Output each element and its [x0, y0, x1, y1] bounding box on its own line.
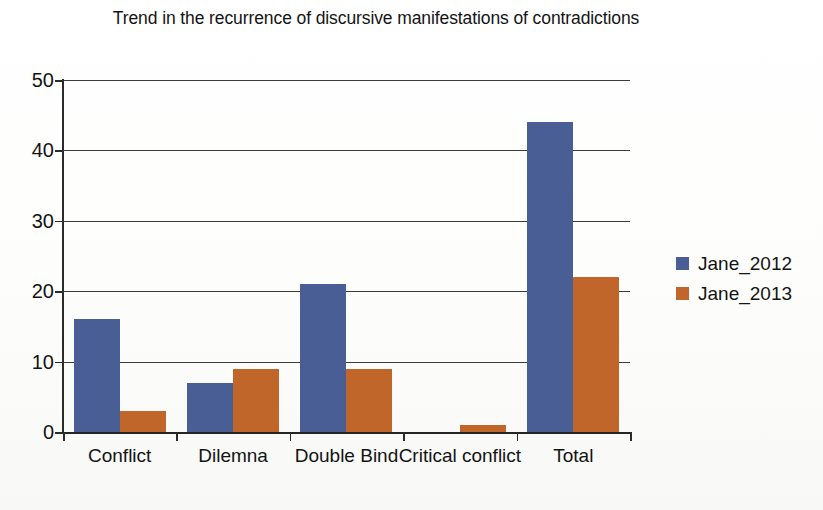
- legend-label: Jane_2013: [698, 284, 792, 303]
- y-tick-mark-10: [55, 362, 63, 364]
- bar-chart: Trend in the recurrence of discursive ma…: [0, 0, 823, 510]
- bar-Jane_2012-conflict: [74, 319, 120, 432]
- bar-Jane_2012-dilemna: [187, 383, 233, 432]
- bar-group: [290, 80, 403, 432]
- chart-legend: Jane_2012Jane_2013: [676, 248, 818, 308]
- x-tick-mark-2: [290, 432, 292, 441]
- x-tick-mark-5: [630, 432, 632, 441]
- y-tick-label-30: 30: [8, 211, 54, 231]
- bar-group: [176, 80, 289, 432]
- y-axis-labels: 01020304050: [0, 0, 54, 510]
- legend-label: Jane_2012: [698, 254, 792, 273]
- x-tick-mark-0: [63, 432, 65, 441]
- y-tick-label-20: 20: [8, 281, 54, 301]
- bars-layer: [63, 80, 630, 432]
- bar-Jane_2013-double-bind: [346, 369, 392, 432]
- y-tick-label-40: 40: [8, 140, 54, 160]
- bar-Jane_2012-double-bind: [300, 284, 346, 432]
- y-tick-label-0: 0: [8, 422, 54, 442]
- bar-Jane_2013-total: [573, 277, 619, 432]
- x-tick-mark-1: [176, 432, 178, 441]
- bar-Jane_2013-critical-conflict: [460, 425, 506, 432]
- bar-group: [403, 80, 516, 432]
- legend-entry-Jane_2012[interactable]: Jane_2012: [676, 248, 818, 278]
- bar-Jane_2012-total: [527, 122, 573, 432]
- y-tick-mark-30: [55, 221, 63, 223]
- y-tick-label-10: 10: [8, 352, 54, 372]
- bar-group: [63, 80, 176, 432]
- legend-swatch-icon: [676, 257, 689, 270]
- gridline-0: [63, 432, 630, 434]
- x-tick-mark-3: [403, 432, 405, 441]
- y-tick-mark-0: [55, 432, 63, 434]
- x-tick-mark-4: [517, 432, 519, 441]
- bar-Jane_2013-dilemna: [233, 369, 279, 432]
- x-tick-label-total: Total: [507, 444, 640, 468]
- bar-group: [517, 80, 630, 432]
- y-tick-mark-40: [55, 150, 63, 152]
- chart-title: Trend in the recurrence of discursive ma…: [96, 6, 656, 31]
- y-tick-mark-50: [55, 80, 63, 82]
- y-tick-label-50: 50: [8, 70, 54, 90]
- legend-entry-Jane_2013[interactable]: Jane_2013: [676, 278, 818, 308]
- plot-area: [63, 80, 630, 432]
- legend-swatch-icon: [676, 287, 689, 300]
- y-tick-mark-20: [55, 291, 63, 293]
- bar-Jane_2013-conflict: [120, 411, 166, 432]
